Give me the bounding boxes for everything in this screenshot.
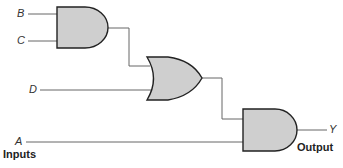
and-gate-1: [57, 7, 108, 48]
input-label-c: C: [17, 35, 25, 46]
output-caption: Output: [297, 142, 333, 153]
or-gate: [147, 57, 202, 100]
inputs-caption: Inputs: [3, 149, 36, 160]
output-label-y: Y: [329, 124, 336, 135]
input-label-b: B: [17, 8, 24, 19]
input-label-d: D: [29, 84, 37, 95]
input-label-a: A: [15, 136, 22, 147]
wire-and1-to-or: [108, 28, 150, 66]
circuit-diagram: [0, 0, 343, 168]
wire-or-to-and2: [202, 78, 244, 119]
and-gate-2: [243, 109, 297, 151]
